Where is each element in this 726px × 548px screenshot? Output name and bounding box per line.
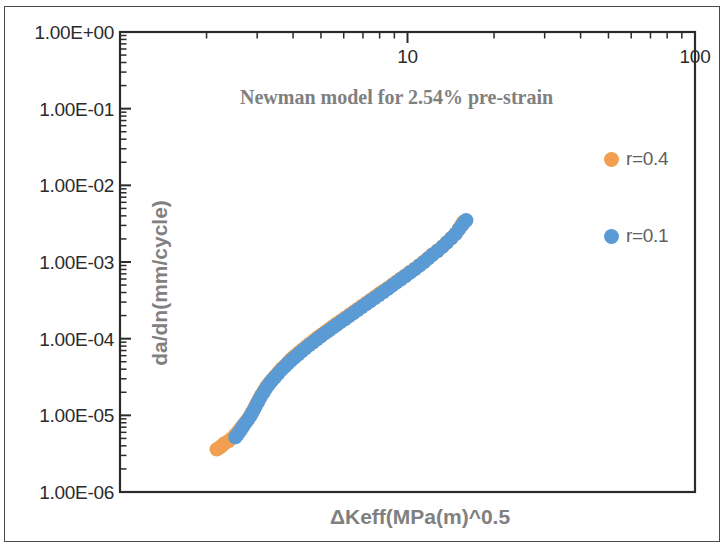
y-tick-label: 1.00E-06 bbox=[2, 483, 114, 502]
y-tick-label: 1.00E-02 bbox=[2, 176, 114, 195]
y-axis-tick-labels: 1.00E+001.00E-011.00E-021.00E-031.00E-04… bbox=[0, 0, 114, 548]
legend-entry-r01: r=0.1 bbox=[604, 225, 668, 247]
data-series-r01 bbox=[228, 213, 473, 444]
legend-label: r=0.4 bbox=[626, 148, 668, 170]
y-tick-label: 1.00E-05 bbox=[2, 406, 114, 425]
y-tick-label: 1.00E+00 bbox=[2, 23, 114, 42]
x-tick-label: 100 bbox=[680, 46, 711, 68]
x-tick-label: 10 bbox=[397, 46, 418, 68]
y-axis-title: da/dn(mm/cycle) bbox=[148, 0, 172, 178]
y-tick-label: 1.00E-03 bbox=[2, 253, 114, 272]
legend-marker-icon bbox=[604, 229, 619, 244]
y-tick-label: 1.00E-01 bbox=[2, 99, 114, 118]
y-axis-title-text: da/dn(mm/cycle) bbox=[148, 178, 172, 388]
legend-entry-r04: r=0.4 bbox=[604, 148, 668, 170]
x-axis-title: ΔKeff(MPa(m)^0.5 bbox=[240, 505, 600, 529]
legend-marker-icon bbox=[604, 152, 619, 167]
figure-canvas: 1.00E+001.00E-011.00E-021.00E-031.00E-04… bbox=[0, 0, 726, 548]
y-tick-label: 1.00E-04 bbox=[2, 329, 114, 348]
chart-title: Newman model for 2.54% pre-strain bbox=[240, 86, 553, 109]
legend-label: r=0.1 bbox=[626, 225, 668, 247]
